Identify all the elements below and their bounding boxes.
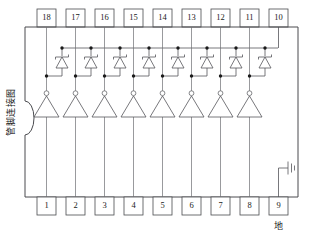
bottom-pin-7-label: 7 <box>218 200 222 210</box>
ground-wire <box>279 168 289 197</box>
top-pin-16-label: 16 <box>100 12 109 22</box>
bottom-pin-5[interactable]: 5 <box>153 197 172 215</box>
channel-1-zener-diode-icon <box>56 55 69 69</box>
diagram-title-vertical: 管脚连接图 <box>5 88 16 136</box>
channel-8 <box>237 27 272 197</box>
channel-5-zener-diode-icon <box>172 55 185 69</box>
channel-6-signal-node <box>190 74 193 77</box>
channel-7-zener-diode-icon <box>230 55 243 69</box>
top-pin-15[interactable]: 15 <box>124 9 143 27</box>
channel-7-signal-node <box>219 74 222 77</box>
channel-2-inverter-icon <box>63 91 88 117</box>
top-pin-11[interactable]: 11 <box>240 9 259 27</box>
top-pin-18-label: 18 <box>42 12 51 22</box>
bottom-pin-5-label: 5 <box>160 200 164 210</box>
top-pin-17[interactable]: 17 <box>66 9 85 27</box>
channel-3-inverter-icon <box>92 91 117 117</box>
top-pin-12-label: 12 <box>216 12 225 22</box>
top-pin-13-label: 13 <box>187 12 196 22</box>
channel-8-inverter-icon <box>237 91 262 117</box>
channel-4-inverter-icon <box>121 91 146 117</box>
channel-6-diode-branch <box>192 68 208 76</box>
channel-1-signal-node <box>45 74 48 77</box>
bottom-pin-group: 1 2 3 4 5 6 7 <box>37 197 288 215</box>
bottom-pin-3-label: 3 <box>102 200 106 210</box>
bottom-pin-8-label: 8 <box>247 200 251 210</box>
bottom-pin-1[interactable]: 1 <box>37 197 56 215</box>
top-pin-10[interactable]: 10 <box>269 9 288 27</box>
channel-3 <box>92 27 127 197</box>
top-pin-15-label: 15 <box>129 12 138 22</box>
bottom-pin-6[interactable]: 6 <box>182 197 201 215</box>
channel-6-zener-diode-icon <box>201 55 214 69</box>
channel-4-rail-node <box>147 46 150 49</box>
channel-2-signal-node <box>74 74 77 77</box>
channel-2-diode-branch <box>76 68 92 76</box>
top-pin-18[interactable]: 18 <box>37 9 56 27</box>
bottom-pin-9-label: 9 <box>276 200 280 210</box>
channel-6-inverter-icon <box>179 91 204 117</box>
bottom-pin-8[interactable]: 8 <box>240 197 259 215</box>
top-pin-11-label: 11 <box>245 12 253 22</box>
bottom-pin-9[interactable]: 9 <box>269 197 288 215</box>
channel-7-diode-branch <box>221 68 237 76</box>
bottom-pin-4[interactable]: 4 <box>124 197 143 215</box>
channel-8-zener-diode-icon <box>259 55 272 69</box>
ground-label: 地 <box>274 220 283 231</box>
top-pin-12[interactable]: 12 <box>211 9 230 27</box>
channel-5-diode-branch <box>163 68 179 76</box>
channel-4-zener-diode-icon <box>143 55 156 69</box>
channel-2-rail-node <box>89 46 92 49</box>
channel-3-rail-node <box>118 46 121 49</box>
channel-8-diode-branch <box>250 68 266 76</box>
channel-3-diode-branch <box>105 68 121 76</box>
channel-4-signal-node <box>132 74 135 77</box>
channel-7-rail-node <box>234 46 237 49</box>
channel-1-inverter-icon <box>34 91 59 117</box>
channel-5-inverter-icon <box>150 91 175 117</box>
top-pin-10-label: 10 <box>274 12 283 22</box>
bottom-pin-1-label: 1 <box>44 200 48 210</box>
top-pin-group: 18 17 16 15 14 13 <box>37 9 288 27</box>
channel-6 <box>179 27 214 197</box>
bottom-pin-7[interactable]: 7 <box>211 197 230 215</box>
channel-3-zener-diode-icon <box>114 55 127 69</box>
channel-4-diode-branch <box>134 68 150 76</box>
channel-3-signal-node <box>103 74 106 77</box>
channel-1-rail-node <box>60 46 63 49</box>
top-pin-14-label: 14 <box>158 12 167 22</box>
channel-2 <box>63 27 98 197</box>
top-pin-17-label: 17 <box>71 12 80 22</box>
top-pin-13[interactable]: 13 <box>182 9 201 27</box>
channel-5-rail-node <box>176 46 179 49</box>
ground-icon <box>288 162 295 175</box>
pin-connection-diagram: 18 17 16 15 14 13 <box>0 0 312 243</box>
channel-6-rail-node <box>205 46 208 49</box>
channel-8-signal-node <box>248 74 251 77</box>
channel-7 <box>208 27 243 197</box>
channel-5-signal-node <box>161 74 164 77</box>
bottom-pin-3[interactable]: 3 <box>95 197 114 215</box>
channel-4 <box>121 27 156 197</box>
channel-1 <box>34 27 69 197</box>
top-pin-14[interactable]: 14 <box>153 9 172 27</box>
top-pin-16[interactable]: 16 <box>95 9 114 27</box>
bottom-pin-2-label: 2 <box>73 200 77 210</box>
channel-8-rail-node <box>263 46 266 49</box>
channel-1-diode-branch <box>47 68 63 76</box>
channel-2-zener-diode-icon <box>85 55 98 69</box>
channel-5 <box>150 27 185 197</box>
bottom-pin-6-label: 6 <box>189 200 193 210</box>
bottom-pin-2[interactable]: 2 <box>66 197 85 215</box>
channel-7-inverter-icon <box>208 91 233 117</box>
ground-connection <box>279 162 295 198</box>
